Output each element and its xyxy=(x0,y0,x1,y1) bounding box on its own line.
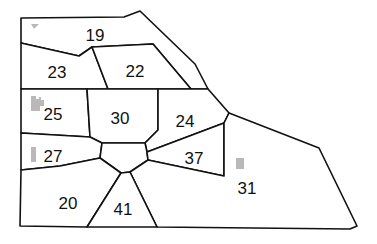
square-marker-icon xyxy=(236,158,244,169)
region-label-20: 20 xyxy=(59,195,78,212)
region-label-22: 22 xyxy=(126,63,145,80)
region-label-27: 27 xyxy=(44,148,63,165)
region-label-24: 24 xyxy=(176,113,195,130)
region-label-30: 30 xyxy=(111,110,130,127)
region-label-23: 23 xyxy=(48,64,67,81)
region-label-41: 41 xyxy=(114,201,133,218)
bar-marker-icon xyxy=(31,147,36,162)
region-label-37: 37 xyxy=(185,150,204,167)
region-label-25: 25 xyxy=(44,106,63,123)
region-label-31: 31 xyxy=(238,180,257,197)
region-label-19: 19 xyxy=(86,27,105,44)
